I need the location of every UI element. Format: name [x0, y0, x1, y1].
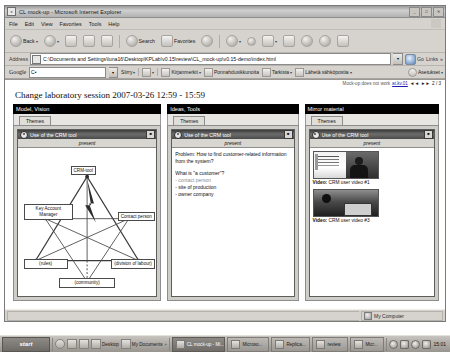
note-content[interactable]: Problem: How to find customer-related in…: [172, 148, 293, 199]
tab-themes-model-vision[interactable]: Themes: [19, 116, 51, 125]
next-page-button[interactable]: ►►: [421, 81, 430, 86]
google-bookmarks-button[interactable]: Kirjanmerkit ▾: [161, 68, 200, 77]
card-subtab-mirror[interactable]: present: [310, 139, 434, 148]
stop-button[interactable]: [63, 34, 79, 48]
column-tabs-model-vision: Themes: [13, 114, 161, 125]
video-thumbnail-1[interactable]: [313, 151, 379, 179]
history-button[interactable]: [199, 34, 215, 48]
menu-item-tools[interactable]: Tools: [89, 21, 102, 27]
maximize-button[interactable]: □: [421, 7, 432, 17]
diagram-node-subject[interactable]: Key Account Manager: [24, 204, 74, 219]
card-subtab-model[interactable]: present: [18, 139, 156, 148]
shield-icon[interactable]: [411, 340, 420, 349]
back-button[interactable]: Back ▾: [8, 34, 40, 48]
google-settings-button[interactable]: Asetukset ▾: [408, 68, 443, 77]
video-label-1: CRM user video #1: [327, 180, 369, 185]
search-button[interactable]: Search: [124, 34, 157, 48]
prev-page-button[interactable]: ◄◄: [410, 81, 419, 86]
column-tabs-mirror-material: Themes: [305, 114, 439, 125]
refresh-button[interactable]: [81, 34, 97, 48]
google-search-dropdown[interactable]: ▾: [109, 67, 118, 78]
quick-launch-overflow-icon[interactable]: »: [165, 342, 167, 347]
links-button[interactable]: Links: [426, 56, 438, 62]
show-desktop-icon[interactable]: [55, 339, 65, 349]
address-dropdown-button[interactable]: ▾: [393, 53, 403, 65]
list-item[interactable]: Video: CRM user video #3: [313, 189, 431, 223]
messenger-button[interactable]: [299, 34, 315, 48]
forward-button[interactable]: ▾: [42, 34, 61, 48]
toolbar-separator: [219, 35, 220, 48]
security-zone-area[interactable]: My Computer: [361, 311, 443, 321]
back-button-label: Back: [23, 38, 35, 44]
diagram-node-object[interactable]: Contact person: [118, 212, 155, 222]
mail-button[interactable]: ▾: [224, 34, 243, 48]
ie-logo-icon: [431, 19, 441, 28]
chevron-down-icon: ▾: [57, 39, 59, 44]
toolbar-overflow-icon[interactable]: »: [440, 56, 443, 62]
start-button[interactable]: start: [2, 337, 50, 352]
google-search-site-button[interactable]: ▾: [142, 68, 154, 77]
card-header-ideas[interactable]: Use of the CRM tool ■: [172, 130, 293, 139]
taskbar-button-micr[interactable]: Micr...: [350, 337, 383, 352]
card-use-of-crm-tool-model: Use of the CRM tool ■ present: [17, 129, 157, 297]
card-subtab-ideas[interactable]: present: [172, 139, 293, 148]
tab-themes-ideas-tools[interactable]: Themes: [173, 116, 205, 125]
ie-icon[interactable]: [67, 339, 77, 349]
taskbar-button-review[interactable]: review: [312, 337, 348, 352]
quick-launch-desktop[interactable]: Desktop: [91, 339, 119, 349]
diagram-node-instrument[interactable]: CRM-tool: [71, 166, 96, 176]
print-button[interactable]: [245, 36, 258, 47]
google-separator: [157, 68, 158, 76]
menu-item-edit[interactable]: Edit: [25, 21, 34, 27]
edit-button[interactable]: ▾: [260, 34, 279, 48]
person-region: [346, 152, 378, 178]
session-link[interactable]: at.kv.01: [392, 81, 408, 86]
card-header-model[interactable]: Use of the CRM tool ■: [18, 130, 156, 139]
system-tray: 15:01: [386, 338, 449, 351]
menu-item-file[interactable]: File: [9, 21, 18, 27]
diagram-node-community[interactable]: (community): [59, 278, 114, 288]
media-button[interactable]: [317, 34, 333, 48]
google-popup-blocker-button[interactable]: Ponnahdusikkunoita: [204, 68, 259, 77]
video-thumbnail-2[interactable]: [313, 189, 379, 217]
taskbar-button-cl-mockup[interactable]: CL mock-up - Mi...: [172, 337, 226, 352]
volume-icon[interactable]: [389, 340, 398, 349]
activity-system-diagram[interactable]: CRM-tool Key Account Manager Contact per…: [18, 148, 156, 296]
menu-item-view[interactable]: View: [41, 21, 53, 27]
close-button[interactable]: ✕: [433, 7, 444, 17]
network-icon[interactable]: [400, 340, 409, 349]
mail-icon: [226, 35, 238, 47]
window-titlebar[interactable]: e CL mock-up - Microsoft Internet Explor…: [5, 6, 445, 18]
minimize-button[interactable]: _: [409, 7, 420, 17]
diagram-node-rules[interactable]: (rules): [24, 259, 68, 269]
card-header-mirror[interactable]: Use of the CRM tool ■: [310, 130, 434, 139]
note-question: What is "a customer"?: [175, 170, 290, 177]
media-icon[interactable]: [79, 339, 89, 349]
taskbar-button-replica[interactable]: Replica...: [271, 337, 310, 352]
home-button[interactable]: [99, 34, 115, 48]
card-menu-button-mirror[interactable]: ■: [424, 130, 433, 139]
column-ideas-tools: Ideas, Tools Themes Use of the CRM tool …: [167, 104, 298, 301]
menu-item-help[interactable]: Help: [108, 21, 119, 27]
battery-icon[interactable]: [422, 340, 431, 349]
google-spellcheck-button[interactable]: Tarkista ▾: [262, 68, 292, 77]
menu-item-favorites[interactable]: Favorites: [60, 21, 82, 27]
favorites-button[interactable]: Favorites: [159, 34, 197, 48]
diagram-node-division-of-labour[interactable]: (division of labour): [111, 259, 155, 269]
address-input[interactable]: C:\Documents and Settings\luna16\Desktop…: [30, 53, 391, 65]
research-button[interactable]: [335, 34, 351, 48]
taskbar-button-microsoft[interactable]: Microso...: [227, 337, 269, 352]
google-go-button[interactable]: Siirry ▾: [121, 69, 135, 75]
list-item[interactable]: Video: CRM user video #1: [313, 151, 431, 185]
column-header-ideas-tools: Ideas, Tools: [167, 104, 298, 114]
discuss-button[interactable]: [281, 34, 297, 48]
tab-themes-mirror-material[interactable]: Themes: [311, 116, 343, 125]
card-menu-button-model[interactable]: ■: [146, 130, 155, 139]
taskbar-clock[interactable]: 15:01: [433, 341, 447, 347]
google-search-input[interactable]: C•: [29, 67, 106, 78]
go-button[interactable]: Go: [405, 54, 424, 65]
card-menu-button-ideas[interactable]: ■: [284, 130, 293, 139]
quick-launch-my-documents[interactable]: My Documents: [121, 339, 163, 349]
column-header-model-vision: Model, Vision: [13, 104, 161, 114]
google-sendmail-button[interactable]: Lähetä sähköpostia ▾: [295, 68, 351, 77]
